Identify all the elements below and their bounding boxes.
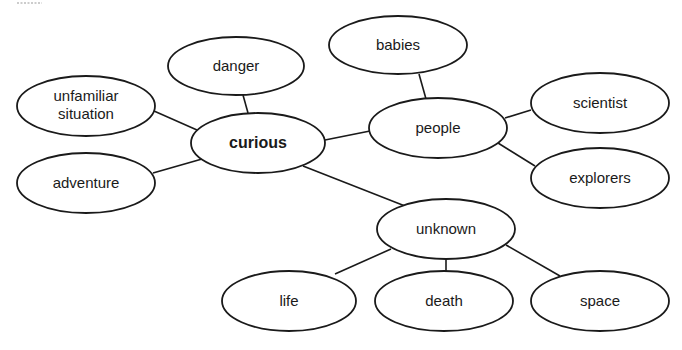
node-adventure: adventure — [17, 153, 155, 213]
edge-curious-unfamiliar — [154, 111, 197, 130]
node-explorers-label: explorers — [569, 169, 631, 186]
node-scientist: scientist — [531, 73, 669, 133]
node-scientist-label: scientist — [573, 94, 628, 111]
node-explorers: explorers — [531, 148, 669, 208]
edge-people-babies — [419, 74, 426, 99]
node-curious: curious — [191, 113, 325, 173]
node-death: death — [375, 271, 513, 331]
node-space: space — [531, 271, 669, 331]
node-unfamiliar-label: unfamiliarsituation — [53, 87, 118, 122]
edge-people-explorers — [498, 143, 535, 166]
node-life-label: life — [279, 292, 298, 309]
edge-unknown-life — [335, 249, 391, 274]
edge-people-scientist — [505, 110, 531, 118]
node-space-label: space — [580, 292, 620, 309]
node-adventure-label: adventure — [53, 174, 120, 191]
edge-curious-people — [325, 131, 370, 140]
edge-curious-danger — [243, 95, 248, 113]
node-curious-label: curious — [229, 134, 287, 151]
node-people: people — [369, 98, 507, 158]
node-death-label: death — [425, 292, 463, 309]
concept-web-diagram: curiousdangerunfamiliarsituationadventur… — [0, 0, 682, 350]
edge-curious-unknown — [303, 166, 405, 206]
nodes-group: curiousdangerunfamiliarsituationadventur… — [17, 16, 669, 331]
edge-curious-adventure — [153, 159, 202, 173]
node-babies-label: babies — [376, 36, 420, 53]
node-unfamiliar: unfamiliarsituation — [17, 76, 155, 136]
node-danger: danger — [168, 37, 304, 95]
node-unknown-label: unknown — [416, 220, 476, 237]
edge-unknown-space — [506, 245, 560, 276]
node-life: life — [222, 271, 356, 331]
node-people-label: people — [415, 119, 460, 136]
node-unknown: unknown — [377, 199, 515, 259]
node-babies: babies — [329, 16, 467, 74]
node-danger-label: danger — [213, 57, 260, 74]
